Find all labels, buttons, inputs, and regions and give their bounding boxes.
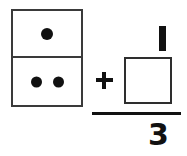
- fraction-denominator: 3: [92, 117, 181, 152]
- domino-bottom-pip-row: [13, 76, 81, 87]
- worksheet-canvas: 3: [0, 0, 187, 156]
- domino-pip-icon: [53, 76, 64, 87]
- answer-input-box[interactable]: [124, 57, 172, 104]
- domino-bottom-half: [13, 58, 81, 105]
- fraction-bar: [92, 112, 181, 115]
- denominator-digit-label: 3: [148, 120, 169, 150]
- domino-top-half: [13, 11, 81, 58]
- domino-pip-icon: [31, 76, 42, 87]
- numerator-digit-one-glyph: [159, 26, 166, 51]
- domino-pip-icon: [41, 28, 53, 40]
- fraction-numerator: [92, 18, 181, 59]
- fraction-expression: 3: [92, 18, 181, 152]
- domino-tile: [11, 9, 83, 107]
- domino-top-pip-row: [13, 28, 81, 40]
